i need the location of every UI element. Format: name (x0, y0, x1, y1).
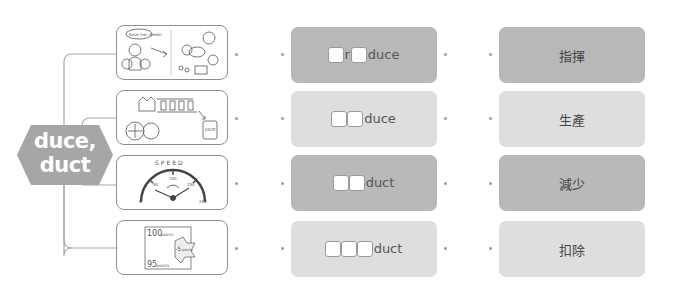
image-card-1[interactable]: Save me, seeds! (116, 25, 228, 80)
word-puzzle-4: duct (325, 241, 404, 257)
word-suffix: duct (374, 241, 403, 257)
meaning-text: 指揮 (559, 46, 585, 65)
speedometer-illustration-icon: SPEED 0 50 100 150 200 (117, 156, 228, 210)
word-suffix: duct (366, 175, 395, 191)
root-label-line1: duce, (17, 129, 113, 153)
word-suffix: duce (368, 47, 400, 63)
svg-text:50: 50 (153, 182, 159, 187)
svg-text:points: points (157, 263, 169, 268)
svg-text:SPEED: SPEED (155, 159, 185, 166)
connector-dot (444, 117, 447, 120)
word-puzzle-1: r duce (328, 47, 401, 63)
word-card-3[interactable]: duct (291, 155, 437, 211)
connector-dot (281, 182, 284, 185)
root-label: duce, duct (17, 129, 113, 177)
connector-dot (444, 53, 447, 56)
connector-dot (281, 53, 284, 56)
letter-blank[interactable] (349, 175, 365, 191)
points-line-2: -5 (175, 245, 181, 252)
root-node: duce, duct (17, 125, 113, 185)
connector-dot (444, 247, 447, 250)
svg-text:200: 200 (199, 199, 207, 204)
svg-text:100: 100 (169, 176, 177, 181)
points-line-3: 95 (147, 260, 157, 269)
meaning-text: 扣除 (559, 240, 585, 259)
connector-dot (235, 247, 238, 250)
connector-dot (489, 182, 492, 185)
meaning-text: 生產 (559, 110, 585, 129)
juice-label: JUICE (204, 127, 216, 132)
connector-dot (235, 182, 238, 185)
word-puzzle-3: duct (333, 175, 396, 191)
connector-dot (281, 117, 284, 120)
seed-kids-illustration-icon: Save me, seeds! (117, 26, 228, 80)
word-suffix: duce (364, 111, 396, 127)
word-card-1[interactable]: r duce (291, 27, 437, 83)
points-deduction-illustration-icon: 100 points -5 points 95 points (117, 221, 228, 275)
connector-dot (235, 117, 238, 120)
root-label-line2: duct (17, 153, 113, 177)
connector-dot (489, 117, 492, 120)
svg-text:points: points (182, 248, 193, 252)
connector-dot (444, 182, 447, 185)
letter-blank[interactable] (325, 241, 341, 257)
connector-dot (489, 53, 492, 56)
word-card-4[interactable]: duct (291, 221, 437, 277)
meaning-card-2[interactable]: 生產 (499, 91, 645, 147)
meaning-card-3[interactable]: 減少 (499, 155, 645, 211)
letter-blank[interactable] (331, 111, 347, 127)
points-line-1: 100 (147, 229, 162, 238)
letter-blank[interactable] (347, 111, 363, 127)
word-card-2[interactable]: duce (291, 91, 437, 147)
svg-text:Save me, seeds!: Save me, seeds! (129, 32, 162, 37)
word-puzzle-2: duce (331, 111, 397, 127)
connector-dot (281, 247, 284, 250)
letter-blank[interactable] (333, 175, 349, 191)
letter-blank[interactable] (328, 47, 344, 63)
connector-dot (235, 53, 238, 56)
connector-dot (489, 247, 492, 250)
letter-blank[interactable] (357, 241, 373, 257)
svg-text:150: 150 (187, 182, 195, 187)
letter-blank[interactable] (351, 47, 367, 63)
image-card-2[interactable]: JUICE (116, 90, 228, 145)
word-fragment: r (345, 47, 350, 63)
meaning-text: 減少 (559, 174, 585, 193)
image-card-4[interactable]: 100 points -5 points 95 points (116, 220, 228, 275)
letter-blank[interactable] (341, 241, 357, 257)
meaning-card-1[interactable]: 指揮 (499, 27, 645, 83)
image-card-3[interactable]: SPEED 0 50 100 150 200 (116, 155, 228, 210)
meaning-card-4[interactable]: 扣除 (499, 221, 645, 277)
juice-factory-illustration-icon: JUICE (117, 91, 228, 145)
svg-text:points: points (161, 232, 173, 237)
